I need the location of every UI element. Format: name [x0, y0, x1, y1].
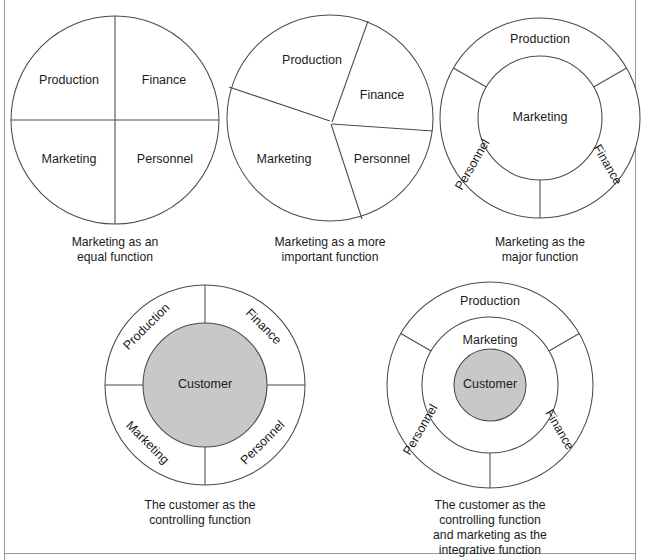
major-function-caption-line-1: Marketing as the — [495, 235, 585, 249]
customer-controlling-caption-line-2: controlling function — [149, 513, 251, 527]
more-important-caption-line-2: important function — [282, 250, 379, 264]
diagram-customer-controlling-marketing-integrative: Production Marketing Customer Finance Pe… — [387, 282, 593, 557]
more-important-label-marketing: Marketing — [257, 152, 312, 166]
equal-function-label-finance: Finance — [142, 73, 187, 87]
integrative-label-customer-center: Customer — [463, 377, 517, 391]
integrative-label-marketing-middle: Marketing — [463, 333, 518, 347]
integrative-label-production: Production — [460, 294, 520, 308]
major-function-caption-line-2: major function — [502, 250, 579, 264]
marketing-role-figure: Production Finance Marketing Personnel M… — [0, 0, 649, 560]
more-important-label-finance: Finance — [360, 88, 405, 102]
more-important-label-personnel: Personnel — [354, 152, 410, 166]
major-function-label-marketing-center: Marketing — [513, 110, 568, 124]
more-important-label-production: Production — [282, 53, 342, 67]
customer-controlling-label-customer-center: Customer — [178, 377, 232, 391]
equal-function-label-production: Production — [39, 73, 99, 87]
equal-function-label-personnel: Personnel — [137, 152, 193, 166]
integrative-caption-line-1: The customer as the — [434, 498, 545, 512]
equal-function-label-marketing: Marketing — [42, 152, 97, 166]
diagram-equal-function: Production Finance Marketing Personnel M… — [11, 16, 219, 264]
major-function-label-production: Production — [510, 32, 570, 46]
integrative-caption-line-2: controlling function — [439, 513, 541, 527]
figure-canvas: Production Finance Marketing Personnel M… — [0, 0, 649, 560]
customer-controlling-caption-line-1: The customer as the — [144, 498, 255, 512]
diagram-major-function: Production Marketing Finance Personnel M… — [440, 18, 640, 264]
diagram-more-important-function: Production Finance Personnel Marketing M… — [227, 15, 433, 264]
equal-function-caption-line-1: Marketing as an — [72, 235, 159, 249]
integrative-caption-line-3: and marketing as the — [433, 528, 547, 542]
more-important-outer-circle — [227, 15, 433, 221]
more-important-caption-line-1: Marketing as a more — [274, 235, 385, 249]
integrative-caption-line-4: integrative function — [439, 543, 541, 557]
equal-function-caption-line-2: equal function — [77, 250, 153, 264]
diagram-customer-controlling: Production Finance Personnel Marketing C… — [105, 285, 305, 527]
